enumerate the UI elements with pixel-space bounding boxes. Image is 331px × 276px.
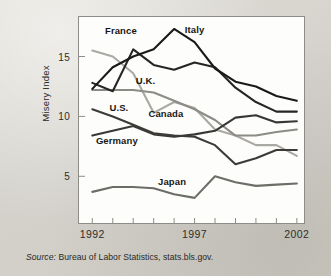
x-tick-label: 1997 (182, 228, 207, 240)
y-axis-label: Misery Index (40, 44, 51, 144)
y-tick-label: 10 (58, 111, 70, 122)
series-label-us: U.S. (109, 101, 128, 112)
series-label-france: France (105, 25, 137, 36)
series-label-japan: Japan (158, 176, 186, 187)
series-label-germany: Germany (96, 135, 138, 146)
plot-area (78, 16, 305, 224)
x-tick-label: 1992 (80, 228, 105, 240)
series-lines (79, 17, 304, 223)
x-tick-label: 2002 (284, 228, 309, 240)
source-lead: Source: (26, 252, 56, 262)
y-tick-label: 15 (58, 51, 70, 62)
source-caption: Source: Bureau of Labor Statistics, stat… (26, 252, 213, 262)
y-tick-label: 5 (64, 171, 70, 182)
series-label-canada: Canada (148, 107, 183, 118)
series-line-japan (92, 176, 297, 198)
series-label-italy: Italy (185, 23, 205, 34)
misery-index-chart-figure: Misery Index 51015 199219972002 ItalyFra… (0, 0, 331, 276)
series-label-uk: U.K. (136, 75, 155, 86)
source-text: Bureau of Labor Statistics, stats.bls.go… (56, 252, 213, 262)
